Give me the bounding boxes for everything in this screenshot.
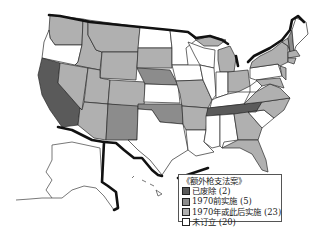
legend-label: 已废除 (2) <box>192 186 231 196</box>
state-mississippi <box>204 115 220 148</box>
legend-label: 1970年或此后实施 (23) <box>192 207 281 217</box>
state-indiana <box>216 72 228 98</box>
state-florida <box>222 140 268 172</box>
state-hawaii <box>132 176 162 196</box>
legend-title: 《额外枪支法案》 <box>182 176 278 186</box>
legend-item-not-enacted: 未订立 (20) <box>182 217 278 227</box>
state-massachusetts <box>288 50 300 58</box>
legend-swatch-not-enacted-icon <box>182 218 190 226</box>
state-kansas <box>144 84 180 103</box>
state-maine <box>292 18 308 52</box>
legend-swatch-repealed-icon <box>182 187 190 195</box>
legend-swatch-1970-or-later-icon <box>182 208 190 216</box>
map-legend: 《额外枪支法案》 已废除 (2) 1970前实施 (5) 1970年或此后实施 … <box>178 174 282 222</box>
legend-item-1970-or-later: 1970年或此后实施 (23) <box>182 207 278 217</box>
state-ohio <box>228 70 250 92</box>
state-alaska <box>46 142 118 210</box>
alaska-aleutians <box>16 198 52 200</box>
legend-item-repealed: 已废除 (2) <box>182 186 278 196</box>
legend-swatch-before-1970-icon <box>182 198 190 206</box>
legend-item-before-1970: 1970前实施 (5) <box>182 196 278 206</box>
state-connecticut <box>288 58 296 64</box>
state-new-mexico <box>106 104 138 140</box>
legend-label: 1970前实施 (5) <box>192 196 252 206</box>
state-south-dakota <box>137 48 172 68</box>
state-iowa <box>172 65 203 81</box>
state-arkansas <box>182 106 208 130</box>
legend-label: 未订立 (20) <box>192 217 236 227</box>
state-michigan <box>218 46 236 72</box>
state-wyoming <box>100 52 138 80</box>
